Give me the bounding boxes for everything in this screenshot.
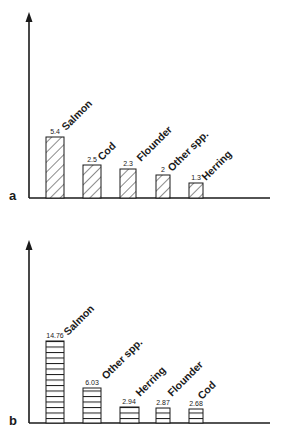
category-label: Cod [95,139,118,162]
value-label: 2.3 [123,160,133,167]
category-label: Herring [199,148,234,183]
bar-a-flounder [120,169,136,198]
bar-a-salmon [46,137,64,198]
bar-b-flounder [156,408,170,423]
category-label: Salmon [59,97,94,132]
bar-b-salmon [46,341,64,423]
arrow-up-icon [26,12,33,22]
value-label: 2.5 [87,156,97,163]
y-axis-a [26,12,33,198]
bar-a-other [156,175,170,198]
category-label: Other spp. [99,336,145,382]
category-label: Cod [195,378,218,401]
category-label: Flounder [134,123,174,163]
bar-b-cod [189,409,203,423]
value-label: 14.76 [46,332,64,339]
panel-a: a 5.4 2.5 2.3 2 1.3 Salmon Cod Flounder … [9,12,270,203]
figure: a 5.4 2.5 2.3 2 1.3 Salmon Cod Flounder … [0,0,282,437]
bar-b-herring [120,407,139,423]
panel-b: b 14.76 6.03 2.94 2.87 2.68 Salmon Other… [9,240,270,428]
value-label: 2.68 [189,400,203,407]
panel-label-b: b [9,413,17,428]
category-label: Other spp. [165,128,211,174]
chart-svg: a 5.4 2.5 2.3 2 1.3 Salmon Cod Flounder … [0,0,282,437]
bar-a-herring [189,183,203,198]
value-label: 2 [161,166,165,173]
panel-label-a: a [9,188,17,203]
y-axis-b [26,240,33,423]
arrow-up-icon [26,240,33,250]
value-label: 5.4 [50,128,60,135]
value-label: 6.03 [85,379,99,386]
bar-b-other [83,388,101,423]
value-label: 2.94 [122,398,136,405]
value-label: 2.87 [156,399,170,406]
category-label: Herring [133,364,168,399]
bar-a-cod [83,165,101,198]
category-label: Salmon [61,302,96,337]
